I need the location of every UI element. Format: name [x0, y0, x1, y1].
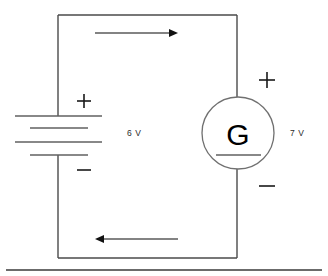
generator-letter: G: [226, 118, 249, 151]
circuit-diagram-canvas: G 6 V 7 V: [0, 0, 328, 276]
circuit-schematic: G 6 V 7 V: [0, 0, 328, 276]
battery-symbol: [15, 116, 102, 155]
top-current-arrow: [95, 29, 178, 37]
bottom-current-arrow: [95, 235, 178, 243]
arrow-head-right: [169, 29, 178, 37]
circuit-loop-wires: [58, 15, 237, 258]
generator-symbol: G: [202, 97, 274, 169]
battery-plus-sign: [77, 94, 91, 108]
generator-voltage-label: 7 V: [290, 128, 305, 138]
arrow-head-left: [95, 235, 104, 243]
generator-plus-sign: [259, 72, 275, 88]
battery-voltage-label: 6 V: [127, 128, 142, 138]
